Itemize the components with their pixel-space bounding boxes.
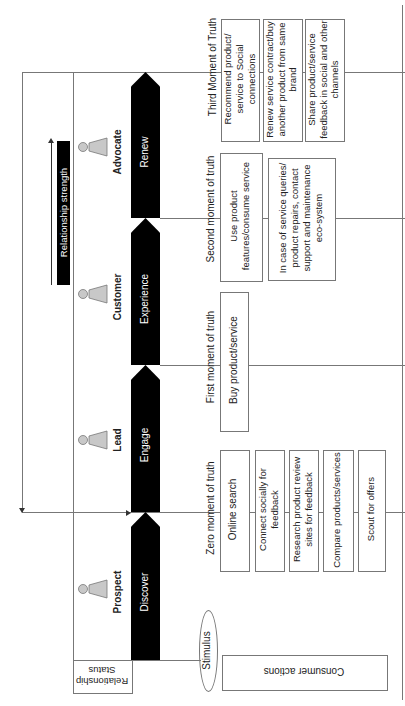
engage-label: Engage [138, 395, 152, 495]
status-column-line [73, 72, 74, 661]
first-moment-item-1: Buy product/service [221, 292, 247, 429]
zero-moment-title: Zero moment of truth [204, 443, 218, 573]
advocate-person-icon [78, 136, 108, 158]
relationship-strength-label: Relationship strength [57, 141, 70, 285]
zero-moment-item-4: Compare products/services [323, 451, 351, 570]
zero-moment-item-3: Research product review sites for feedba… [289, 450, 316, 569]
lead-person-icon [78, 429, 108, 451]
third-moment-title: Third Moment of Truth [206, 2, 220, 132]
consumer-actions-label: Consumer actions [222, 655, 386, 689]
stimulus-label: Stimulus [200, 611, 215, 691]
second-moment-item-1: Use product features/consume service [220, 153, 260, 279]
customer-person-icon [78, 283, 108, 305]
third-moment-item-3: Share product/service feedback in social… [305, 20, 342, 139]
advocate-label: Advocate [111, 122, 125, 182]
renew-label: Renew [138, 102, 152, 202]
prospect-label: Prospect [111, 562, 125, 622]
separator-line-experience-engage [160, 365, 405, 366]
third-moment-item-2: Renew service contract/buy another produ… [263, 20, 300, 139]
experience-label: Experience [138, 249, 152, 349]
lead-label: Lead [111, 410, 125, 470]
discover-label: Discover [138, 542, 152, 642]
second-moment-title: Second moment of truth [204, 144, 218, 274]
relationship-status-label: Relationship Status [73, 660, 131, 692]
zero-moment-item-5: Scout for offers [358, 450, 384, 569]
left-bracket-line [22, 72, 23, 513]
prospect-person-icon [78, 578, 108, 600]
bracket-down-arrow-icon [19, 508, 25, 513]
relationship-strength-arrow-line [51, 142, 52, 285]
baseline-line [131, 660, 201, 661]
bracket-right-arrow-icon [126, 510, 131, 516]
second-moment-item-2: In case of service queries/ product repa… [269, 158, 333, 278]
zero-moment-item-1: Online search [220, 450, 247, 569]
relationship-strength-arrow-icon [48, 138, 54, 143]
first-moment-title: First moment of truth [204, 292, 218, 422]
customer-label: Customer [111, 267, 125, 327]
zero-moment-item-2: Connect socially for feedback [255, 450, 282, 569]
third-moment-item-1: Recommend product/ service to Social con… [222, 20, 258, 139]
right-border-line [402, 5, 403, 700]
